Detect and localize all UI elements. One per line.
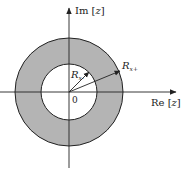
origin-label: 0 [72,95,78,105]
real-axis-label: Re [z] [151,97,181,108]
imaginary-axis-label: Im [z] [75,5,105,16]
z-plane-diagram: Im [z] Re [z] 0 Rx- Rx+ [0,0,185,176]
outer-radius-label: Rx+ [121,60,138,72]
